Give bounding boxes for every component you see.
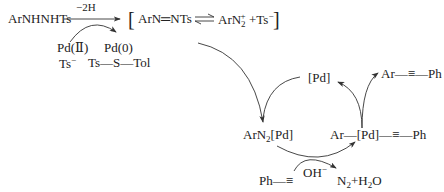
byproducts-label: N2+H2O: [337, 174, 382, 190]
pd0-label: Pd(0): [104, 41, 133, 54]
byproduct-ts-s-tol: Ts—S—Tol: [88, 56, 150, 69]
bracket-open: [: [128, 9, 135, 29]
intermediate-2-label: ArN2+ +Ts−: [218, 12, 273, 29]
intermediate-1-label: ArN═NTs: [138, 12, 192, 25]
alkyne-label: Ph—≡: [259, 174, 293, 187]
reductive-elimination-to-pd-arrow: [338, 82, 362, 128]
alkynyl-pd-label: Ar—[Pd]—≡—Ph: [330, 128, 426, 141]
arrow-label: −2H: [76, 2, 96, 13]
diazonium-to-cycle-arrow: [198, 43, 263, 122]
ts-anion-label: Ts−: [59, 56, 76, 70]
reactant-label: ArNHNHTs: [8, 12, 71, 25]
bracket-close: ]: [273, 9, 280, 29]
aryldiazonium-pd-label: ArN2[Pd]: [243, 128, 293, 144]
pd-to-aryldiazonium-arrow: [263, 77, 300, 118]
transmetalation-arrow: [277, 142, 355, 157]
pd2-label: Pd(Ⅱ): [57, 41, 88, 54]
base-label: OH−: [303, 165, 327, 179]
catalyst-pd-label: [Pd]: [308, 71, 330, 84]
product-label: Ar—≡—Ph: [381, 67, 442, 80]
reductive-elimination-to-product-arrow: [362, 73, 378, 128]
